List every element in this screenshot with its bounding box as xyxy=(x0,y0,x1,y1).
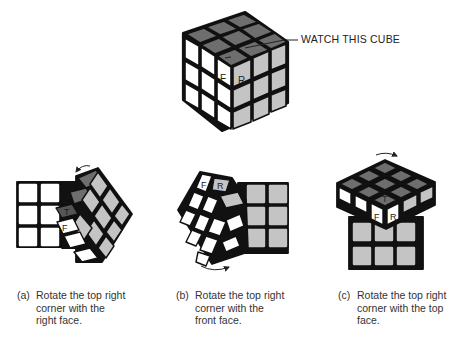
caption-label: (c) xyxy=(338,289,350,302)
sticker-label-front: F xyxy=(220,73,226,84)
caption-text: Rotate the top right corner with the top… xyxy=(357,289,447,327)
sticker-label-right: R xyxy=(238,75,245,86)
sticker-label-front: F xyxy=(62,223,68,233)
main-cube: F R xyxy=(183,12,288,131)
sticker-label-right: R xyxy=(390,212,397,222)
sticker-label-top: T xyxy=(382,194,388,204)
panel-c-cube: T F R xyxy=(337,153,435,269)
sticker-label-front: F xyxy=(201,180,207,190)
caption-text: Rotate the top right corner with the rig… xyxy=(36,289,126,327)
panel-b-cube: F R xyxy=(178,172,288,270)
caption-text: Rotate the top right corner with the fro… xyxy=(195,289,285,327)
caption-label: (b) xyxy=(176,289,189,302)
panel-a-cube: T F xyxy=(17,166,132,262)
sticker-label-right: R xyxy=(217,181,224,191)
rotation-arrow-icon xyxy=(201,266,229,270)
callout-label: WATCH THIS CUBE xyxy=(301,33,400,45)
rotation-arrow-icon xyxy=(376,153,397,156)
caption-label: (a) xyxy=(17,289,30,302)
sticker-label-top: T xyxy=(64,207,70,217)
sticker-label-front: F xyxy=(374,212,380,222)
